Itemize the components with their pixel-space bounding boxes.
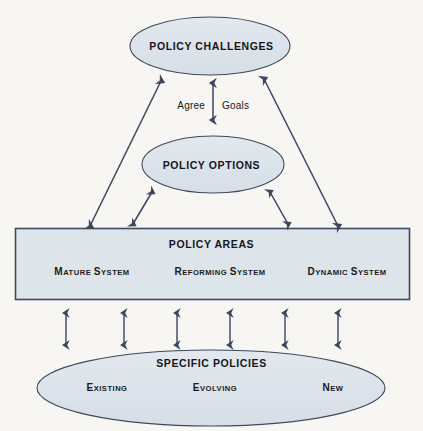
policy-framework-diagram: POLICY CHALLENGES Agree Goals POLICY OPT… xyxy=(0,0,423,431)
policy-options-ellipse xyxy=(142,136,284,193)
left-diagonal-areas-to-options xyxy=(133,192,152,224)
policy-areas-box xyxy=(16,229,410,300)
specific-policies-ellipse xyxy=(37,350,385,426)
right-diagonal-areas-to-options xyxy=(270,192,288,224)
areas-to-policies-arrow-group xyxy=(66,313,338,345)
policy-challenges-ellipse xyxy=(130,17,290,75)
diagram-canvas xyxy=(0,0,423,431)
